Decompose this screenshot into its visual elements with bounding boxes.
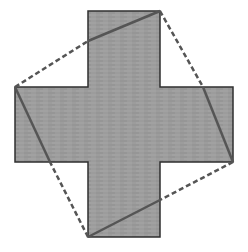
square-edge-bottom-right-dashed <box>160 162 233 200</box>
square-edge-top-left-dashed <box>15 41 88 87</box>
cross-square-figure <box>0 0 248 252</box>
cross-shape <box>15 11 233 237</box>
square-edge-bottom-left-dashed <box>50 162 88 237</box>
square-edge-top-right-dashed <box>160 11 203 87</box>
diagram-canvas <box>0 0 248 252</box>
